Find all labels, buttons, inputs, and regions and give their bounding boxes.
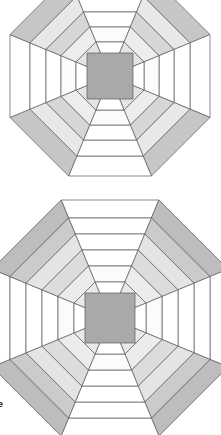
ring-segment-straight-2-0 [88, 266, 131, 282]
ring-segment-straight-5-0 [69, 218, 152, 234]
ring-segment-straight-3-0 [83, 12, 136, 27]
ring-segment-straight-5-4 [69, 156, 152, 176]
ring-segment-straight-3-0 [82, 250, 138, 266]
ring-segment-straight-5-4 [69, 402, 152, 418]
ring-segment-straight-2-2 [144, 56, 159, 97]
ring-segment-straight-3-6 [46, 49, 61, 102]
ring-segment-straight-2-2 [146, 296, 162, 339]
ring-segment-straight-4-0 [77, 0, 143, 12]
ring-segment-straight-5-2 [194, 277, 210, 360]
ring-segment-straight-4-6 [30, 43, 46, 109]
ring-segment-straight-5-6 [10, 35, 30, 118]
ring-segment-straight-5-2 [190, 35, 210, 118]
ring-segment-straight-2-4 [90, 110, 131, 125]
diagram-canvas [0, 0, 221, 435]
ring-segment-straight-2-6 [58, 296, 74, 339]
ring-segment-straight-4-2 [178, 283, 194, 353]
stray-text-fragment: e [0, 399, 3, 409]
ring-segment-straight-2-0 [90, 27, 131, 42]
ring-segment-straight-4-4 [77, 140, 143, 156]
ring-segment-straight-5-6 [10, 277, 26, 360]
ring-segment-straight-3-4 [82, 370, 138, 386]
ring-segment-straight-4-2 [174, 43, 190, 109]
ring-segment-straight-6-2 [210, 269, 221, 367]
center-square [85, 293, 135, 343]
ring-segment-straight-4-6 [26, 283, 42, 353]
ring-segment-straight-4-4 [75, 386, 145, 402]
ring-segment-straight-2-4 [88, 354, 131, 370]
octagon-blocks-svg [0, 0, 221, 435]
center-square [87, 53, 133, 99]
ring-segment-straight-3-6 [42, 290, 58, 346]
ring-segment-straight-4-0 [75, 234, 145, 250]
ring-segment-straight-2-6 [61, 56, 76, 97]
ring-segment-straight-6-6 [0, 269, 10, 367]
octagon-block-bottom [0, 200, 221, 435]
ring-segment-straight-3-2 [162, 290, 178, 346]
ring-segment-straight-6-4 [61, 418, 159, 435]
ring-segment-straight-6-0 [61, 200, 159, 218]
ring-segment-straight-3-2 [159, 49, 174, 102]
ring-segment-straight-3-4 [83, 125, 136, 140]
